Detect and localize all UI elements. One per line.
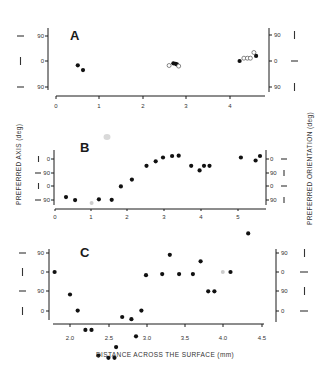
data-point (199, 259, 203, 263)
panel-b-xtick: 2 (125, 214, 129, 220)
data-point (68, 292, 72, 296)
data-point (154, 159, 158, 163)
data-point (97, 197, 101, 201)
data-point (207, 164, 211, 168)
panel-a-ytick-right: 90 (274, 84, 281, 90)
panel-a-xtick: 1 (97, 103, 101, 109)
panel-a-ytick-right: 0 (274, 58, 278, 64)
panel-b-xtick: 0 (53, 214, 57, 220)
data-point (139, 309, 143, 313)
data-point (73, 198, 77, 202)
data-point (252, 51, 256, 55)
data-point (130, 178, 134, 182)
data-point (239, 155, 243, 159)
data-point (191, 272, 195, 276)
data-point (168, 253, 172, 257)
panel-c-xtick: 4.5 (258, 335, 267, 341)
panel-c-xtick: 3.5 (181, 335, 190, 341)
panel-b-xtick: 3 (162, 214, 166, 220)
data-point (129, 317, 133, 321)
panel-c: C 90 0 90 0 90 0 90 0 2.0 2.5 3 (19, 231, 308, 360)
panel-b-points (64, 154, 262, 206)
panel-a-points (76, 51, 259, 73)
panel-c-label: C (80, 245, 90, 260)
panel-a-ytick-left: 90 (37, 33, 44, 39)
data-point (114, 345, 118, 349)
panel-c-xtick: 3.0 (143, 335, 152, 341)
panel-c-ytick-left: 90 (37, 288, 44, 294)
panel-b-xtick: 4 (199, 214, 203, 220)
panel-b-label: B (80, 140, 89, 155)
panel-a-xtick: 3 (184, 103, 188, 109)
panel-a-xtick: 4 (228, 103, 232, 109)
panel-c-xtick: 4.0 (219, 335, 228, 341)
data-point (161, 155, 165, 159)
panel-a-xtick: 2 (141, 103, 145, 109)
data-point (246, 231, 250, 235)
data-point (228, 270, 232, 274)
data-point (120, 315, 124, 319)
y-axis-title-left: PREFERRED AXIS (deg) (15, 124, 23, 205)
data-point (202, 164, 206, 168)
panel-b-xtick: 5 (236, 214, 240, 220)
data-point (206, 289, 210, 293)
data-point (170, 154, 174, 158)
smudge-artifact (104, 134, 111, 140)
panel-c-xtick: 2.5 (105, 335, 114, 341)
data-point (198, 168, 202, 172)
data-point (238, 59, 242, 63)
data-point (119, 184, 123, 188)
panel-a-ytick-left: 0 (41, 58, 45, 64)
data-point (189, 164, 193, 168)
data-point (177, 272, 181, 276)
data-point (212, 289, 216, 293)
panel-b-ytick-right: 0 (270, 183, 274, 189)
data-point (144, 164, 148, 168)
panel-b-ytick-right: 90 (270, 170, 277, 176)
panel-a-label: A (70, 28, 80, 43)
panel-c-ytick-right: 0 (281, 269, 285, 275)
panel-c-ytick-left: 0 (41, 269, 45, 275)
data-point (76, 63, 80, 67)
data-point (144, 273, 148, 277)
panel-c-ytick-right: 90 (281, 250, 288, 256)
panel-b: B 0 90 0 90 0 90 0 90 0 1 (35, 134, 287, 220)
panel-a: A 90 0 90 90 0 90 0 1 2 3 4 (17, 28, 298, 109)
data-point (167, 64, 171, 68)
data-point (177, 64, 181, 68)
data-point (258, 154, 262, 158)
panel-a-ytick-right: 90 (274, 32, 281, 38)
panel-b-ytick-right: 90 (270, 197, 277, 203)
panel-b-ytick-left: 90 (43, 197, 50, 203)
panel-b-ytick-left: 90 (43, 170, 50, 176)
data-point (221, 270, 225, 274)
panel-c-ytick-right: 0 (281, 308, 285, 314)
panel-c-ytick-left: 0 (41, 308, 45, 314)
figure: A 90 0 90 90 0 90 0 1 2 3 4 (0, 0, 327, 368)
data-point (254, 158, 258, 162)
data-point (110, 198, 114, 202)
data-point (177, 154, 181, 158)
data-point (160, 272, 164, 276)
panel-a-ytick-left: 90 (37, 84, 44, 90)
panel-a-xtick: 0 (54, 103, 58, 109)
panel-c-ytick-left: 90 (37, 250, 44, 256)
data-point (64, 195, 68, 199)
panel-b-ytick-right: 0 (270, 156, 274, 162)
panel-c-ytick-right: 90 (281, 288, 288, 294)
panel-b-ytick-left: 0 (47, 183, 51, 189)
data-point (248, 56, 252, 60)
data-point (83, 328, 87, 332)
y-axis-title-right: PREFERRED ORIENTATION (deg) (306, 112, 314, 225)
data-point (90, 201, 94, 205)
data-point (89, 328, 93, 332)
data-point (76, 309, 80, 313)
panel-c-xtick: 2.0 (66, 335, 75, 341)
panel-b-xtick: 1 (89, 214, 93, 220)
panel-b-ytick-left: 0 (47, 156, 51, 162)
x-axis-title: DISTANCE ACROSS THE SURFACE (mm) (96, 351, 234, 359)
data-point (134, 334, 138, 338)
data-point (53, 270, 57, 274)
data-point (81, 68, 85, 72)
